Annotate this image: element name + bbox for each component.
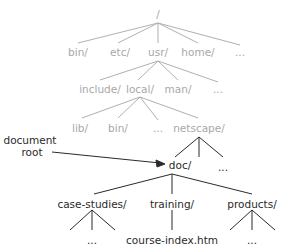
node-products: products/: [227, 198, 276, 210]
node-case-studies-ellipsis: ...: [87, 234, 97, 246]
node-local: local/: [126, 83, 154, 95]
node-etc: etc/: [110, 46, 130, 58]
active-edges: [52, 137, 275, 230]
node-lib: lib/: [72, 122, 88, 134]
node-case-studies: case-studies/: [57, 198, 126, 210]
node-products-ellipsis: ...: [247, 234, 257, 246]
node-doc: doc/: [169, 159, 191, 171]
node-level4-ellipsis: ...: [218, 161, 228, 173]
node-include: include/: [79, 83, 121, 95]
node-bin: bin/: [68, 46, 88, 58]
node-local-bin: bin/: [108, 122, 128, 134]
arrowhead-icon: [156, 160, 165, 167]
node-root: /: [156, 8, 160, 20]
tree-edges: [0, 0, 283, 251]
node-level1-ellipsis: ...: [235, 46, 245, 58]
node-level2-ellipsis: ...: [213, 83, 223, 95]
node-level3-ellipsis: ...: [153, 122, 163, 134]
node-man: man/: [165, 83, 192, 95]
node-course-index: course-index.htm: [126, 234, 218, 246]
annotation-root: root: [21, 146, 42, 158]
node-netscape: netscape/: [173, 122, 225, 134]
faded-edges: [78, 23, 240, 120]
node-home: home/: [181, 46, 214, 58]
node-usr: usr/: [148, 46, 168, 58]
annotation-document: document: [4, 134, 57, 146]
node-training: training/: [150, 198, 194, 210]
